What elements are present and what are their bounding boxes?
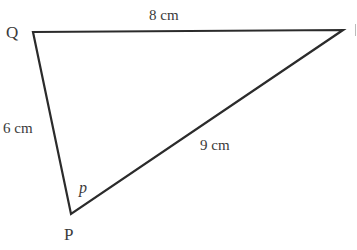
angle-label-p: p [78, 179, 87, 197]
triangle-diagram: Q P 8 cm 6 cm 9 cm p [0, 0, 357, 250]
side-label-qr: 8 cm [149, 7, 179, 23]
vertex-label-p: P [64, 225, 73, 244]
vertex-label-q: Q [6, 23, 18, 42]
side-label-qp: 6 cm [3, 120, 33, 136]
side-label-pr: 9 cm [200, 137, 230, 153]
